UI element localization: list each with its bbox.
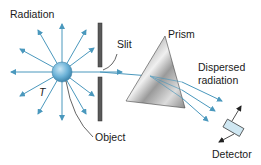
dispersed-label-line2: radiation — [198, 75, 238, 86]
slit-label: Slit — [117, 39, 132, 50]
prism-icon — [126, 36, 185, 108]
prism-label: Prism — [168, 29, 195, 40]
object-label: Object — [95, 132, 125, 143]
radiation-label: Radiation — [10, 9, 54, 20]
detector-label: Detector — [212, 149, 252, 160]
slit-leader-line — [103, 54, 117, 70]
detector-icon — [219, 106, 244, 142]
object-leader-line — [66, 81, 93, 137]
dispersed-label-line1: Dispersed — [198, 62, 245, 73]
temperature-label: T — [39, 87, 45, 98]
object-sphere-icon — [52, 62, 72, 82]
dispersed-radiation-rays — [182, 82, 222, 121]
